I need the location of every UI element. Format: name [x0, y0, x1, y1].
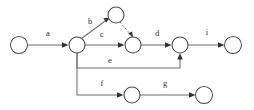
edge-f: f: [77, 53, 124, 98]
edge-label-f: f: [101, 78, 104, 88]
edge-d-arrowhead: [165, 42, 172, 47]
edge-label-g: g: [163, 78, 168, 88]
node-start[interactable]: [11, 37, 28, 54]
node-merge-4[interactable]: [125, 37, 141, 53]
edge-i: i: [188, 27, 225, 48]
node-lower-7[interactable]: [124, 87, 140, 103]
edge-g: g: [140, 78, 196, 98]
edge-label-c: c: [100, 29, 104, 39]
edge-label-b: b: [88, 16, 92, 26]
edge-e: e: [77, 53, 183, 68]
graph-svg: a b c d i: [0, 0, 254, 110]
node-lower-end-8[interactable]: [196, 87, 213, 104]
edge-d: d: [141, 28, 172, 48]
edge-a-arrowhead: [62, 42, 69, 47]
node-top-3[interactable]: [108, 7, 124, 23]
edge-g-arrowhead: [189, 92, 196, 97]
edge-f-path: [77, 53, 120, 95]
edge-label-i: i: [206, 27, 209, 37]
node-end-6[interactable]: [225, 37, 242, 54]
edge-label-d: d: [155, 28, 160, 38]
edge-f-arrowhead: [117, 92, 124, 97]
edge-dashed-dummy: [120, 22, 133, 38]
diagram-canvas: a b c d i: [0, 0, 254, 110]
edge-e-path: [77, 53, 180, 68]
edge-a: a: [28, 28, 69, 48]
edge-label-e: e: [108, 55, 112, 65]
edge-b: b: [82, 16, 111, 39]
node-merge-5[interactable]: [172, 37, 188, 53]
edge-i-arrowhead: [218, 42, 225, 47]
edge-c-arrowhead: [118, 42, 125, 47]
node-branch-2[interactable]: [69, 37, 85, 53]
edge-label-a: a: [46, 28, 50, 38]
edge-e-arrowhead: [177, 53, 182, 60]
